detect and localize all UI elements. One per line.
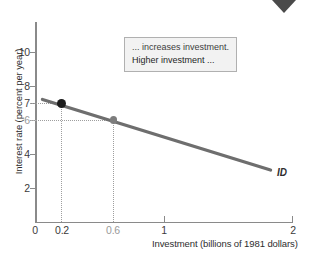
guide-vertical-0-6 [113,120,114,222]
triangle-down-icon [272,0,296,13]
data-point-0-6-6 [110,116,118,124]
y-tick-label-2: 2 [2,182,30,194]
data-point-0-2-7 [57,99,66,108]
x-tick-2 [292,216,293,222]
x-tick-label-0: 0 [26,224,44,236]
x-tick-label-1: 1 [155,224,173,236]
x-tick-1 [164,216,165,222]
y-tick-4 [30,154,36,155]
x-tick-label-0-2: 0.2 [49,224,75,236]
guide-vertical-0-2 [61,103,62,222]
investment-demand-chart: 10 8 7 6 4 2 0 0.2 0.6 1 2 ID ... increa… [0,0,313,253]
y-tick-2 [30,188,36,189]
callout-line-1: ... increases investment. [132,41,229,54]
y-tick-8 [30,86,36,87]
guide-horizontal-6 [30,120,113,121]
callout-box: ... increases investment. Higher investm… [124,37,237,72]
x-axis-title: Investment (billions of 1981 dollars) [152,238,298,249]
x-tick-label-2: 2 [284,224,302,236]
y-tick-10 [30,52,36,53]
x-tick-label-0-6: 0.6 [100,224,126,236]
callout-line-2: Higher investment ... [132,54,229,67]
id-curve-label: ID [277,167,287,178]
y-axis-title: Interest rate (percent per year) [13,42,24,182]
